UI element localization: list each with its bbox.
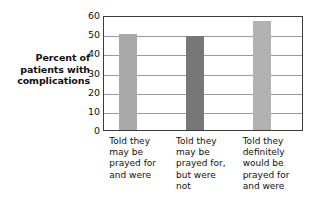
y-tick-label-60: 60 [78, 11, 100, 21]
x-category-label-1-line-2: prayed for, [176, 158, 226, 169]
x-category-label-0-line-3: and were [109, 170, 156, 181]
x-axis-category-labels: Told theymay beprayed forand wereTold th… [103, 136, 317, 208]
y-tick-label-40: 40 [78, 49, 100, 59]
x-category-label-1-line-4: not [176, 181, 226, 192]
bar-chart-figure: Percent ofpatients withcomplications 010… [0, 0, 317, 212]
x-category-label-2-line-3: prayed for [243, 170, 290, 181]
y-tick-label-0: 0 [78, 126, 100, 136]
bar-series [104, 17, 302, 130]
bar-1 [186, 36, 204, 130]
x-category-label-2-line-2: would be [243, 158, 290, 169]
y-tick-label-20: 20 [78, 88, 100, 98]
bar-0 [119, 34, 137, 130]
y-axis-tick-labels: 0102030405060 [78, 16, 100, 131]
x-category-label-1-line-1: may be [176, 147, 226, 158]
bar-2 [253, 21, 271, 130]
x-category-label-1: Told theymay beprayed for,but werenot [176, 136, 226, 192]
x-category-label-0-line-2: prayed for [109, 158, 156, 169]
x-category-label-0-line-1: may be [109, 147, 156, 158]
plot-area [103, 16, 303, 131]
x-category-label-2-line-0: Told they [243, 136, 290, 147]
x-category-label-0: Told theymay beprayed forand were [109, 136, 156, 181]
y-tick-label-30: 30 [78, 69, 100, 79]
y-tick-label-10: 10 [78, 107, 100, 117]
x-category-label-1-line-3: but were [176, 170, 226, 181]
x-category-label-1-line-0: Told they [176, 136, 226, 147]
x-category-label-2: Told theydefinitelywould beprayed forand… [243, 136, 290, 192]
y-tick-label-50: 50 [78, 30, 100, 40]
x-category-label-2-line-4: and were [243, 181, 290, 192]
x-category-label-2-line-1: definitely [243, 147, 290, 158]
x-category-label-0-line-0: Told they [109, 136, 156, 147]
